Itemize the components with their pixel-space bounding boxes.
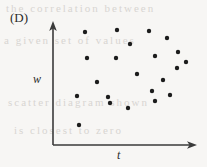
y-axis [49,21,57,145]
data-point [150,89,154,93]
data-point [176,50,180,54]
data-point [135,72,139,76]
data-point [115,28,119,32]
plot-area [0,0,207,167]
x-axis [53,141,197,149]
data-point [108,101,112,105]
data-point [106,95,110,99]
data-point [128,42,132,46]
data-point [165,36,169,40]
data-point [85,56,89,60]
data-point [147,29,151,33]
data-point [114,56,118,60]
data-point [75,94,79,98]
data-point [168,93,172,97]
data-point [126,106,130,110]
data-point [95,80,99,84]
data-point-group [75,28,188,127]
data-point [184,60,188,64]
data-point [83,30,87,34]
data-point [161,78,165,82]
data-point [77,123,81,127]
data-point [175,66,179,70]
data-point [153,54,157,58]
scatter-figure: the correlation between a given set of v… [0,0,207,167]
data-point [153,99,157,103]
